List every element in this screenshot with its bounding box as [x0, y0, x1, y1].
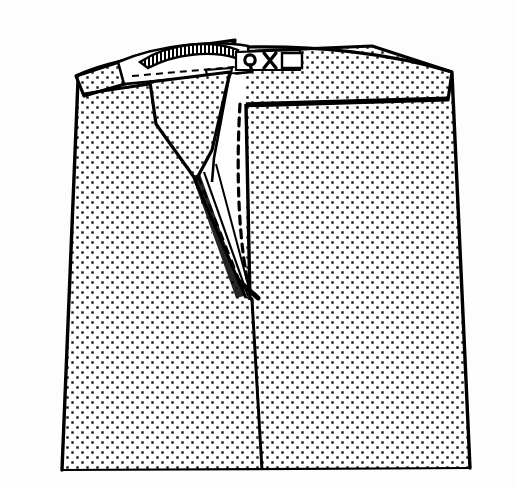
skirt-line-drawing	[0, 0, 515, 486]
bar-plate	[282, 53, 302, 68]
skirt-body-fill	[62, 74, 470, 470]
skirt-body	[62, 74, 470, 470]
illustration-canvas: Skirt with centre-front zipper fly Techn…	[0, 0, 515, 486]
hook-shank	[250, 65, 252, 71]
hook-and-bar-closure	[236, 50, 302, 71]
